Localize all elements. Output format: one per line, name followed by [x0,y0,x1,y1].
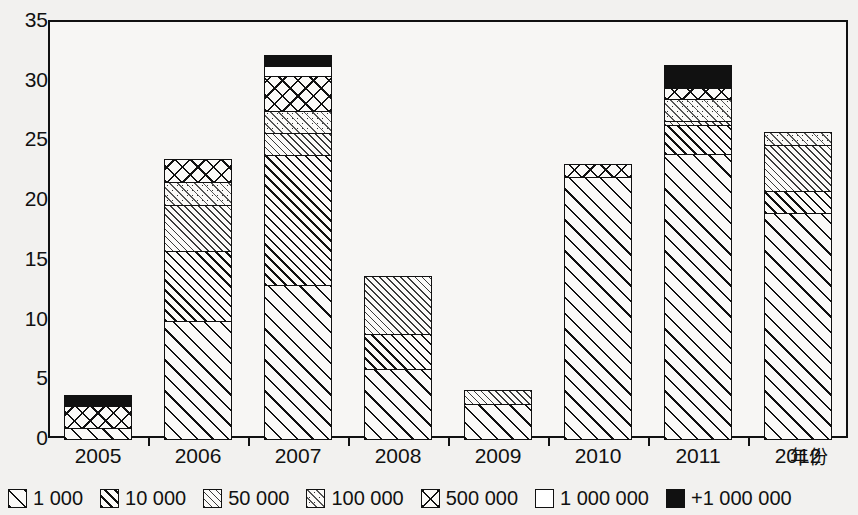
y-axis-tick-label: 30 [4,69,48,90]
legend-swatch-icon [203,489,222,508]
bars-layer [48,20,848,438]
y-axis-tick-label: 25 [4,128,48,149]
bar-2010 [564,164,632,438]
bar-segment-500000 [64,405,132,429]
x-axis-label-2007: 2007 [248,444,348,468]
bar-segment-1000000 [264,65,332,77]
bar-segment-1000000 [664,65,732,89]
x-axis-title: 年份 [790,446,828,470]
legend-item-1000[interactable]: 1 000 [8,488,83,508]
bar-segment-1000 [64,428,132,440]
y-axis-tick-label: 20 [4,188,48,209]
bar-segment-100000 [264,110,332,134]
y-axis-tick-label: 15 [4,248,48,269]
bar-segment-500000 [564,164,632,178]
legend-swatch-icon [8,489,27,508]
y-axis-tick-label: 5 [4,367,48,388]
x-axis-label-2005: 2005 [48,444,148,468]
legend-label: 50 000 [228,488,289,508]
bar-segment-100000 [664,98,732,122]
bar-segment-1000000 [264,55,332,67]
bar-2005 [64,395,132,438]
bar-segment-10000 [164,250,232,322]
bar-segment-500000 [164,159,232,183]
y-axis-tick-label: 0 [4,427,48,448]
legend-item-1000000[interactable]: +1 000 000 [666,488,792,508]
bar-segment-50000 [364,276,432,336]
stacked-bar-chart: 35302520151050 2005200620072008200920102… [0,0,858,515]
x-axis-label-2008: 2008 [348,444,448,468]
x-axis-label-2011: 2011 [648,444,748,468]
bar-segment-100000 [764,132,832,146]
bar-2008 [364,276,432,438]
bar-segment-1000 [664,153,732,440]
legend-swatch-icon [421,489,440,508]
legend-item-500000[interactable]: 500 000 [421,488,518,508]
y-axis-tick-label: 35 [4,9,48,30]
legend-item-50000[interactable]: 50 000 [203,488,289,508]
bar-segment-50000 [464,390,532,406]
x-axis-label-2009: 2009 [448,444,548,468]
legend-swatch-icon [535,489,554,508]
y-axis: 35302520151050 [0,0,48,458]
bar-segment-1000 [564,177,632,440]
bar-segment-1000000 [64,395,132,407]
bar-segment-10000 [264,155,332,286]
x-axis-label-2006: 2006 [148,444,248,468]
chart-legend: 1 00010 00050 000100 000500 0001 000 000… [8,484,854,512]
bar-2011 [664,65,732,438]
legend-label: 10 000 [125,488,186,508]
bar-segment-1000 [264,284,332,439]
bar-2006 [164,159,232,438]
legend-label: 500 000 [446,488,518,508]
bar-segment-500000 [664,88,732,100]
legend-item-100000[interactable]: 100 000 [306,488,403,508]
legend-label: 100 000 [331,488,403,508]
legend-swatch-icon [666,489,685,508]
bar-2012 [764,132,832,439]
x-axis-labels: 20052006200720082009201020112012 [48,444,848,474]
bar-2007 [264,55,332,438]
legend-item-1000000[interactable]: 1 000 000 [535,488,649,508]
bar-segment-50000 [264,132,332,156]
bar-segment-10000 [664,125,732,155]
bar-2009 [464,390,532,438]
bar-segment-50000 [164,204,232,252]
legend-label: 1 000 000 [560,488,649,508]
y-axis-tick-label: 10 [4,308,48,329]
bar-segment-1000 [764,213,832,440]
bar-segment-500000 [264,76,332,112]
legend-swatch-icon [306,489,325,508]
bar-segment-50000 [764,144,832,192]
x-axis-label-2010: 2010 [548,444,648,468]
bar-segment-1000 [364,368,432,440]
legend-label: +1 000 000 [691,488,792,508]
bar-segment-10000 [764,190,832,214]
bar-segment-10000 [364,334,432,370]
legend-label: 1 000 [33,488,83,508]
legend-item-10000[interactable]: 10 000 [100,488,186,508]
bar-segment-100000 [164,182,232,206]
bar-segment-1000 [164,320,232,439]
bar-segment-1000 [464,404,532,440]
legend-swatch-icon [100,489,119,508]
